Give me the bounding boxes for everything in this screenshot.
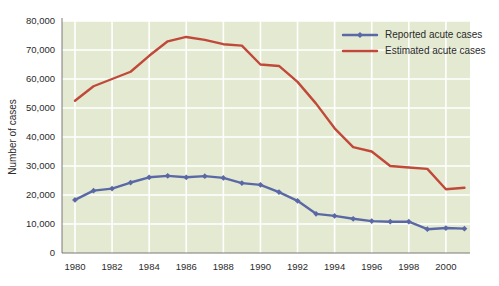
legend-label: Estimated acute cases [385,45,486,56]
legend-label: Reported acute cases [385,29,482,40]
x-tick-label: 1984 [139,261,160,272]
y-tick-label: 40,000 [26,131,55,142]
y-tick-label: 80,000 [26,15,55,26]
x-tick-label: 1982 [102,261,123,272]
y-tick-label: 10,000 [26,218,55,229]
x-tick-label: 1990 [250,261,271,272]
x-tick-label: 1998 [398,261,419,272]
x-tick-label: 1980 [64,261,85,272]
x-tick-label: 1988 [213,261,234,272]
x-tick-label: 1986 [176,261,197,272]
y-tick-label: 30,000 [26,160,55,171]
y-tick-label: 0 [50,247,55,258]
x-tick-label: 1992 [287,261,308,272]
x-axis-tick-labels: 1980198219841986198819901992199419961998… [64,261,456,272]
y-axis-title: Number of cases [7,99,18,175]
x-tick-label: 1996 [361,261,382,272]
y-tick-label: 50,000 [26,102,55,113]
chart-container: 010,00020,00030,00040,00050,00060,00070,… [0,0,499,286]
y-tick-label: 60,000 [26,73,55,84]
y-axis-tick-labels: 010,00020,00030,00040,00050,00060,00070,… [26,15,55,258]
line-chart: 010,00020,00030,00040,00050,00060,00070,… [0,0,499,286]
x-tick-label: 1994 [324,261,345,272]
y-tick-label: 70,000 [26,44,55,55]
x-tick-label: 2000 [435,261,456,272]
y-tick-label: 20,000 [26,189,55,200]
